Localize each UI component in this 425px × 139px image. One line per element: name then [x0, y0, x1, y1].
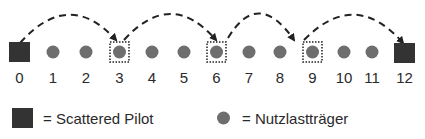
- index-label: 4: [148, 69, 156, 86]
- nodes: [9, 42, 415, 63]
- index-label: 0: [15, 69, 23, 86]
- index-label: 11: [364, 69, 380, 86]
- carrier-node-7: [243, 46, 256, 59]
- index-label: 6: [212, 69, 220, 86]
- legend-pilot-label: = Scattered Pilot: [43, 110, 154, 127]
- index-label: 1: [49, 69, 57, 86]
- legend-pilot-square-icon: [12, 108, 33, 128]
- legend: = Scattered Pilot = Nutzlastträger: [12, 108, 348, 128]
- carrier-node-9: [306, 46, 319, 59]
- legend-carrier-label: = Nutzlastträger: [242, 110, 348, 127]
- carrier-node-6: [210, 46, 223, 59]
- pilot-interpolation-diagram: 0 1 2 3 4 5 6 7 8 9 10 11 12 = Scattered…: [0, 0, 425, 139]
- pilot-node-0: [9, 42, 30, 62]
- index-label: 12: [396, 69, 413, 86]
- carrier-node-8: [274, 46, 287, 59]
- carrier-node-10: [338, 46, 351, 59]
- arc-0-to-3: [20, 15, 116, 43]
- carrier-node-1: [47, 46, 60, 59]
- carrier-node-4: [146, 46, 159, 59]
- index-label: 7: [245, 69, 253, 86]
- interpolation-arcs: [20, 13, 403, 43]
- index-label: 8: [276, 69, 284, 86]
- index-label: 3: [115, 69, 123, 86]
- carrier-node-5: [178, 46, 191, 59]
- index-labels: 0 1 2 3 4 5 6 7 8 9 10 11 12: [15, 69, 413, 86]
- arc-6-to-9: [228, 13, 294, 40]
- carrier-node-11: [366, 46, 379, 59]
- carrier-node-2: [80, 46, 93, 59]
- index-label: 9: [308, 69, 316, 86]
- arc-3-to-6: [124, 14, 216, 40]
- index-label: 10: [336, 69, 353, 86]
- index-label: 5: [180, 69, 188, 86]
- index-label: 2: [82, 69, 90, 86]
- carrier-node-3: [113, 46, 126, 59]
- legend-carrier-circle-icon: [217, 112, 230, 125]
- pilot-node-12: [394, 43, 415, 63]
- arc-9-to-12: [304, 15, 403, 43]
